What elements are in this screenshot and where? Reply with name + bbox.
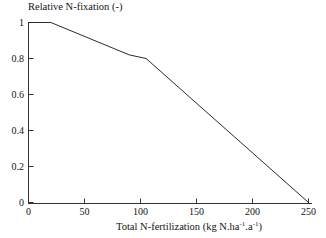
x-tick-marks bbox=[29, 199, 309, 204]
x-tick-label-200: 200 bbox=[245, 206, 260, 217]
y-tick-label-1: 1 bbox=[19, 17, 24, 28]
x-tick-label-50: 50 bbox=[80, 206, 90, 217]
y-tick-label-0-2: 0.2 bbox=[12, 161, 25, 172]
x-tick-label-0: 0 bbox=[26, 206, 31, 217]
x-axis-title-suffix: ) bbox=[258, 221, 262, 232]
y-tick-label-0-6: 0.6 bbox=[12, 89, 25, 100]
x-tick-label-250: 250 bbox=[301, 206, 316, 217]
x-axis-title-prefix: Total N-fertilization (kg N.ha bbox=[116, 221, 239, 232]
chart-figure: Relative N-fixation (-) 1 0.8 0.6 0.4 0.… bbox=[0, 0, 326, 238]
y-tick-marks bbox=[29, 23, 34, 203]
y-tick-label-0-4: 0.4 bbox=[12, 125, 25, 136]
x-tick-label-100: 100 bbox=[133, 206, 148, 217]
data-series-line bbox=[29, 23, 309, 203]
y-tick-label-0-8: 0.8 bbox=[12, 53, 25, 64]
plot-canvas: 1 0.8 0.6 0.4 0.2 0 0 50 100 150 200 250 bbox=[0, 0, 326, 238]
y-tick-label-0: 0 bbox=[19, 197, 24, 208]
x-axis-title: Total N-fertilization (kg N.ha-1.a-1) bbox=[0, 221, 326, 233]
x-axis-title-mid: .a bbox=[245, 221, 252, 232]
x-tick-label-150: 150 bbox=[189, 206, 204, 217]
